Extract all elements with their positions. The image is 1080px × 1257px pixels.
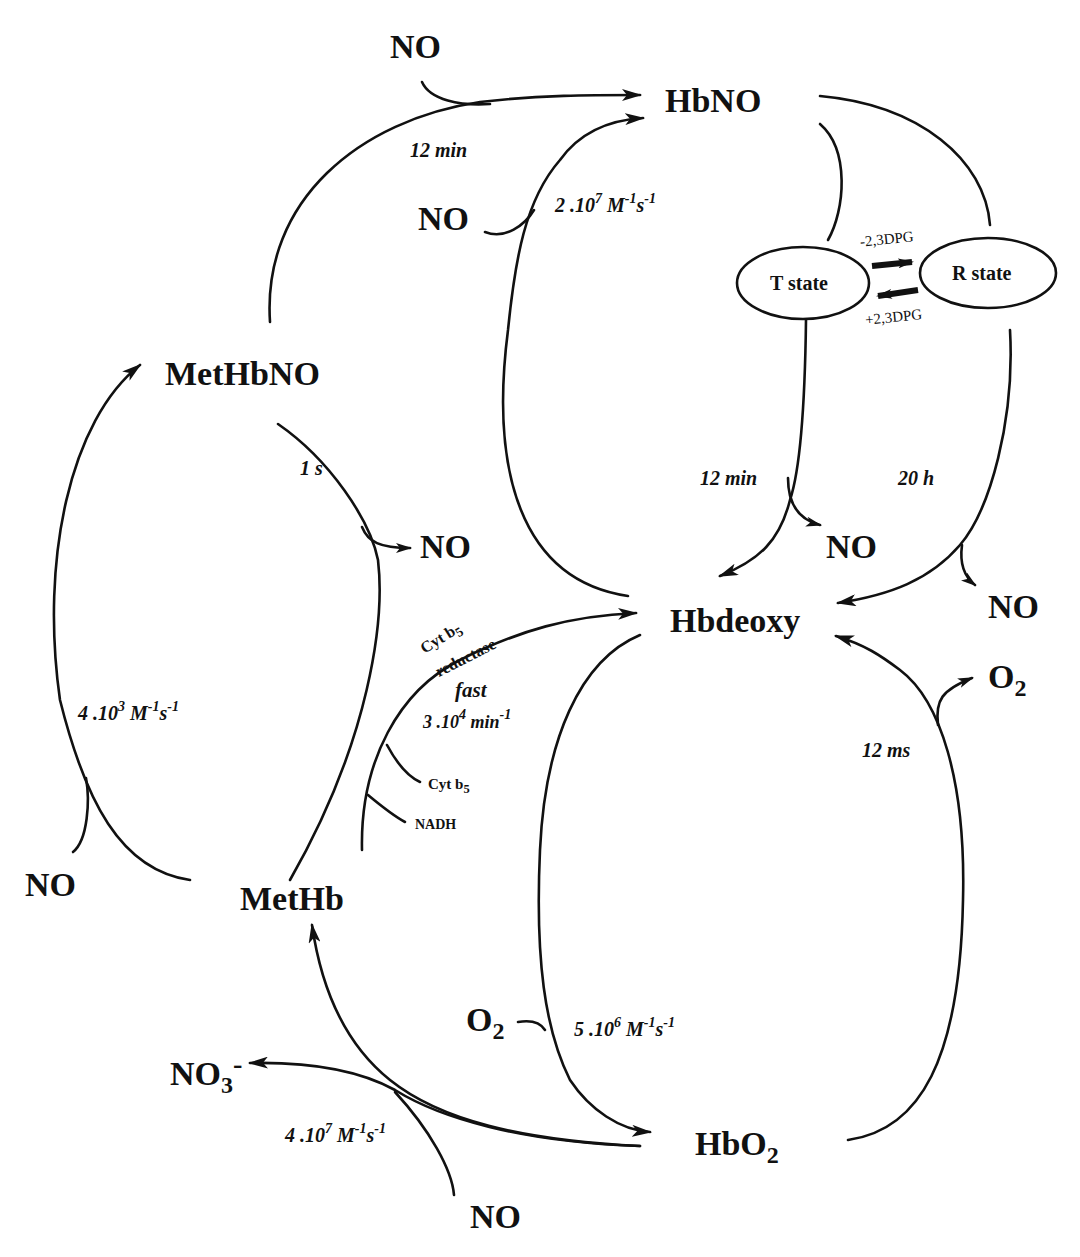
label-hbo2: HbO2 (695, 1127, 779, 1167)
arrow-o2-release (937, 678, 972, 725)
label-no-t-release: NO (826, 530, 877, 564)
arrow-hbo2-to-hbdeoxy (836, 636, 963, 1140)
label-nadh: NADH (415, 818, 456, 832)
label-no3: NO3- (170, 1050, 242, 1097)
rate-hbo2-to-methb: 4 .107 M-1s-1 (285, 1122, 386, 1145)
rate-hbo2-release: 12 ms (862, 740, 910, 760)
label-no-r-release: NO (988, 590, 1039, 624)
label-no-bottom: NO (470, 1200, 521, 1234)
label-methbno: MetHbNO (165, 357, 320, 391)
label-no-1s: NO (420, 530, 471, 564)
rate-reductase: 3 .104 min-1 (423, 708, 511, 731)
link-nadh (368, 795, 405, 822)
rate-hbdeoxy-to-hbo2: 5 .106 M-1s-1 (574, 1016, 675, 1039)
label-no-left: NO (25, 868, 76, 902)
label-methb: MetHb (240, 882, 344, 916)
rate-t-state-release: 12 min (700, 468, 757, 488)
arrow-t-state-to-hbdeoxy (720, 320, 806, 576)
arrow-no-left (73, 778, 88, 852)
link-hbno-t-state (820, 124, 842, 240)
label-no-top: NO (390, 30, 441, 64)
rate-hbdeoxy-to-hbno: 2 .107 M-1s-1 (555, 192, 656, 215)
arrow-t-to-r (872, 262, 912, 266)
rate-r-state-release: 20 h (898, 468, 934, 488)
label-no-second: NO (418, 202, 469, 236)
link-hbno-r-state (820, 96, 990, 225)
reaction-arrows (0, 0, 1080, 1257)
arrow-hbdeoxy-to-hbo2 (539, 635, 650, 1132)
rate-methbno-release: 1 s (300, 458, 323, 478)
label-t-state: T state (770, 273, 828, 293)
label-o2-release: O2 (988, 660, 1026, 700)
arrow-no-bottom (395, 1092, 454, 1195)
arrow-r-to-t (878, 290, 918, 296)
label-o2-join: O2 (466, 1003, 504, 1043)
label-hbno: HbNO (665, 84, 761, 118)
arrow-o2-join (518, 1021, 545, 1030)
label-r-state: R state (952, 263, 1011, 283)
arrow-hbdeoxy-to-hbno (503, 118, 643, 596)
rate-methb-to-methbno: 4 .103 M-1s-1 (78, 700, 179, 723)
arrow-methb-to-methbno (54, 365, 190, 880)
rate-reductase-speed: fast (455, 680, 487, 701)
label-hbdeoxy: Hbdeoxy (670, 604, 800, 638)
link-cyt-b5 (387, 745, 420, 782)
label-cyt-b5: Cyt b5 (428, 777, 470, 796)
rate-methbno-to-hbno: 12 min (410, 140, 467, 160)
arrow-r-state-no (961, 545, 975, 585)
